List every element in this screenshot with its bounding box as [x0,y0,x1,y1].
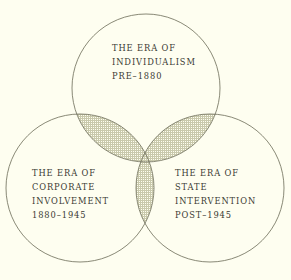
label-corporate-line2: CORPORATE [32,180,109,194]
label-corporate-line3: INVOLVEMENT [32,194,109,208]
label-individualism-line2: INDIVIDUALISM [112,55,196,69]
label-individualism-line3: PRE–1880 [112,69,196,83]
label-state-intervention: THE ERA OF STATE INTERVENTION POST–1945 [175,166,256,222]
label-individualism: THE ERA OF INDIVIDUALISM PRE–1880 [112,41,196,83]
label-state-line3: INTERVENTION [175,194,256,208]
label-state-line2: STATE [175,180,256,194]
label-corporate-line1: THE ERA OF [32,166,109,180]
label-corporate-line4: 1880–1945 [32,208,109,222]
label-corporate-involvement: THE ERA OF CORPORATE INVOLVEMENT 1880–19… [32,166,109,222]
label-state-line1: THE ERA OF [175,166,256,180]
venn-diagram-figure: THE ERA OF INDIVIDUALISM PRE–1880 THE ER… [0,0,291,280]
label-individualism-line1: THE ERA OF [112,41,196,55]
label-state-line4: POST–1945 [175,208,256,222]
